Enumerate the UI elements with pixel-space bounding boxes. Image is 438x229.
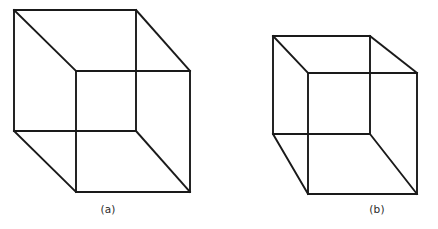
cube-b-connector-top-left [273, 36, 308, 73]
cube-a-connector-top-left [14, 10, 76, 71]
panel-label-a: (a) [100, 203, 115, 215]
cube-b [273, 36, 417, 194]
cube-b-connector-top-right [370, 36, 417, 73]
cube-a-connector-bottom-right [136, 131, 190, 192]
cube-a-connector-bottom-left [14, 131, 76, 192]
cube-b-connector-bottom-left [273, 134, 308, 194]
cube-a [14, 10, 190, 192]
cube-a-connector-top-right [136, 10, 190, 71]
figure-canvas: (a) (b) [0, 0, 438, 229]
panel-label-b: (b) [369, 203, 384, 215]
cube-b-connector-bottom-right [370, 134, 417, 194]
necker-cube-pair-drawing [0, 0, 438, 229]
